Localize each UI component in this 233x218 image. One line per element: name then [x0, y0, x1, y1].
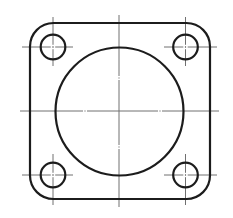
- centerlines-layer: [20, 15, 219, 207]
- technical-drawing: [0, 0, 233, 218]
- drawing-canvas: [0, 0, 233, 218]
